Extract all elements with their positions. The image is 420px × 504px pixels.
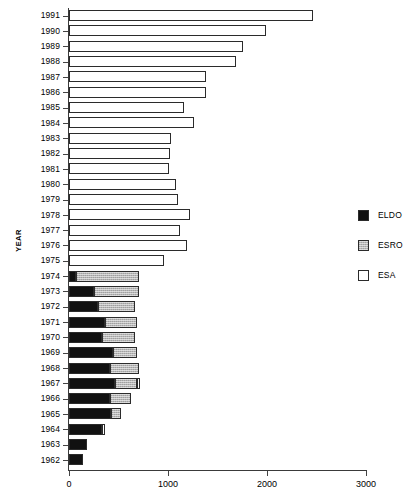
gray-swatch	[358, 240, 369, 251]
bar-row	[69, 25, 366, 36]
bar-segment-esro	[94, 286, 140, 297]
x-axis-tick	[267, 471, 268, 476]
bar-segment-eldo	[69, 301, 98, 312]
bar-row	[69, 163, 366, 174]
y-axis-tick-label: 1972	[0, 302, 60, 311]
y-axis-tick-label: 1970	[0, 333, 60, 342]
bar-row	[69, 439, 366, 450]
bar-row	[69, 10, 366, 21]
y-axis-tick-label: 1968	[0, 364, 60, 373]
y-axis-tick	[63, 261, 68, 262]
bar-row	[69, 148, 366, 159]
y-axis-tick	[63, 16, 68, 17]
bar-segment-esa	[69, 163, 169, 174]
bar-row	[69, 454, 366, 465]
bar-segment-eldo	[69, 332, 102, 343]
x-axis-tick-label: 2000	[237, 479, 297, 489]
black-swatch	[358, 210, 369, 221]
x-axis-tick	[168, 471, 169, 476]
x-axis-tick-label: 3000	[336, 479, 396, 489]
y-axis-tick	[63, 77, 68, 78]
bar-segment-esa	[69, 10, 313, 21]
bar-segment-esa	[69, 240, 187, 251]
bar-row	[69, 378, 366, 389]
bar-segment-esa	[69, 56, 236, 67]
y-axis-tick	[63, 230, 68, 231]
y-axis-tick-label: 1981	[0, 165, 60, 174]
bar-row	[69, 71, 366, 82]
bar-segment-esa	[69, 209, 190, 220]
y-axis-tick-label: 1989	[0, 42, 60, 51]
plot-area	[69, 8, 366, 470]
bar-segment-esa	[69, 41, 243, 52]
y-axis-tick-label: 1963	[0, 440, 60, 449]
x-axis-tick	[69, 471, 70, 476]
bar-segment-esa	[69, 133, 171, 144]
y-axis-tick-label: 1987	[0, 73, 60, 82]
y-axis-tick-label: 1975	[0, 256, 60, 265]
y-axis-tick-label: 1974	[0, 272, 60, 281]
y-axis-tick-label: 1978	[0, 211, 60, 220]
x-axis-line	[68, 470, 367, 471]
bar-segment-esro	[110, 393, 131, 404]
bar-segment-esro	[76, 271, 139, 282]
white-swatch	[358, 270, 369, 281]
y-axis-tick-label: 1982	[0, 149, 60, 158]
bar-segment-eldo	[69, 393, 110, 404]
bar-segment-esro	[115, 378, 137, 389]
y-axis-tick-label: 1962	[0, 456, 60, 465]
bar-row	[69, 393, 366, 404]
legend-item[interactable]: ESRO	[358, 238, 420, 268]
y-axis-tick-label: 1977	[0, 226, 60, 235]
bar-row	[69, 194, 366, 205]
x-axis-tick	[366, 471, 367, 476]
bar-row	[69, 408, 366, 419]
y-axis-tick-label: 1966	[0, 394, 60, 403]
bar-row	[69, 286, 366, 297]
bar-row	[69, 424, 366, 435]
bar-segment-eldo	[69, 454, 83, 465]
legend-item[interactable]: ESA	[358, 268, 420, 298]
y-axis-tick	[63, 368, 68, 369]
bar-segment-esa	[102, 424, 104, 435]
bar-segment-esa	[69, 255, 164, 266]
bar-segment-esa	[69, 87, 206, 98]
bar-row	[69, 209, 366, 220]
bar-segment-eldo	[69, 424, 102, 435]
y-axis-tick	[63, 337, 68, 338]
bar-segment-eldo	[69, 271, 76, 282]
bar-row	[69, 56, 366, 67]
bar-row	[69, 255, 366, 266]
y-axis-tick-label: 1983	[0, 134, 60, 143]
y-axis-tick	[63, 169, 68, 170]
y-axis-tick	[63, 322, 68, 323]
bar-segment-esa	[69, 148, 170, 159]
bar-segment-esro	[110, 363, 140, 374]
y-axis-tick	[63, 445, 68, 446]
y-axis-tick	[63, 184, 68, 185]
bar-row	[69, 240, 366, 251]
y-axis-tick-label: 1985	[0, 103, 60, 112]
y-axis-tick-label: 1979	[0, 195, 60, 204]
y-axis-tick	[63, 245, 68, 246]
bar-segment-esa	[69, 179, 176, 190]
y-axis-tick-label: 1973	[0, 287, 60, 296]
y-axis-tick-label: 1984	[0, 119, 60, 128]
bar-segment-eldo	[69, 363, 110, 374]
legend-label: ELDO	[378, 210, 402, 221]
bar-segment-eldo	[69, 286, 94, 297]
y-axis-tick-label: 1971	[0, 318, 60, 327]
bar-row	[69, 225, 366, 236]
legend-item[interactable]: ELDO	[358, 208, 420, 238]
bar-row	[69, 301, 366, 312]
y-axis-tick	[63, 307, 68, 308]
bar-segment-eldo	[69, 317, 105, 328]
bar-segment-esa	[69, 225, 180, 236]
y-axis-tick-label: 1980	[0, 180, 60, 189]
bar-chart: YEAR 19911990198919881987198619851984198…	[0, 0, 420, 504]
y-axis-tick	[63, 108, 68, 109]
bar-segment-esa	[69, 71, 206, 82]
bar-row	[69, 41, 366, 52]
y-axis-tick-label: 1986	[0, 88, 60, 97]
y-axis-tick	[63, 429, 68, 430]
